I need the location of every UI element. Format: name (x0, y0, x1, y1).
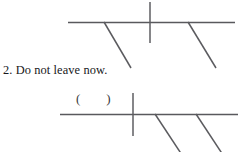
document-page: 2. Do not leave now. ( ) (0, 0, 248, 152)
falling-tone-stroke-top-1 (104, 22, 131, 68)
falling-tone-stroke-top-2 (188, 22, 216, 68)
parentheses-annotation: ( ) (76, 92, 111, 106)
exercise-sentence: 2. Do not leave now. (3, 63, 107, 78)
falling-tone-stroke-bottom-1 (155, 114, 184, 152)
falling-tone-stroke-bottom-2 (196, 114, 225, 152)
intonation-diagram-top (68, 2, 235, 68)
